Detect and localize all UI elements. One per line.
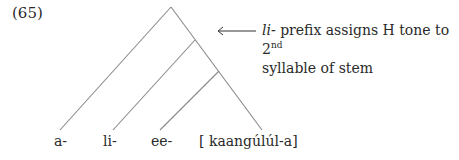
leaf-li: li- xyxy=(103,133,117,149)
branch-node2-left xyxy=(113,40,195,130)
branch-root-left xyxy=(60,7,171,130)
annotation: li- prefix assigns H tone to 2nd syllabl… xyxy=(262,21,459,78)
leaf-a: a- xyxy=(54,133,67,149)
annotation-line2: syllable of stem xyxy=(262,59,459,78)
annotation-line1: li- prefix assigns H tone to 2nd xyxy=(262,21,459,59)
leaf-stem: [ kaangúlúl-a] xyxy=(199,133,298,149)
leaf-ee: ee- xyxy=(151,133,172,149)
prefix-italic: li- xyxy=(262,22,276,38)
branch-node3-left xyxy=(160,71,219,130)
arrow xyxy=(218,27,256,35)
branch-root-right xyxy=(171,7,262,130)
